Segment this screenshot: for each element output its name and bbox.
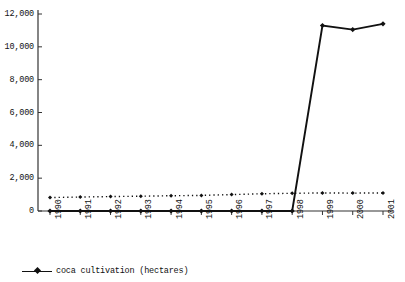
x-axis-tick-label: 1995 bbox=[205, 199, 215, 219]
y-axis-tick-label: 10,000 bbox=[5, 42, 34, 52]
x-axis-tick-label: 1992 bbox=[114, 199, 124, 219]
y-axis-tick-label: 4,000 bbox=[9, 140, 34, 150]
x-axis-tick-label: 1996 bbox=[235, 199, 245, 219]
x-axis-tick-label: 1990 bbox=[54, 199, 64, 219]
x-axis-tick-label: 1991 bbox=[84, 199, 94, 219]
y-axis-tick-label: 0 bbox=[29, 206, 34, 216]
legend-item-label: coca cultivation (hectares) bbox=[56, 266, 188, 276]
y-axis-tick-label: 8,000 bbox=[9, 75, 34, 85]
series-line-solid bbox=[50, 24, 383, 211]
legend-diamond-marker-icon bbox=[34, 267, 41, 274]
x-axis-tick-label: 1994 bbox=[175, 199, 185, 219]
axis-lines bbox=[38, 10, 393, 211]
x-axis-tick-label: 1999 bbox=[326, 199, 336, 219]
x-axis-tick-label: 2000 bbox=[356, 199, 366, 219]
series-markers-solid bbox=[47, 21, 385, 213]
x-axis-tick-label: 1993 bbox=[144, 199, 154, 219]
y-axis-tick-label: 6,000 bbox=[9, 108, 34, 118]
x-axis-tick-label: 2001 bbox=[387, 199, 397, 219]
plot-area bbox=[0, 0, 405, 282]
x-axis-tick-label: 1998 bbox=[296, 199, 306, 219]
chart-container: 12,00010,0008,0006,0004,0002,0000 199019… bbox=[0, 0, 405, 282]
y-axis-tick-label: 2,000 bbox=[9, 173, 34, 183]
series-line-dotted bbox=[50, 193, 383, 198]
legend-line-swatch bbox=[22, 267, 52, 276]
chart-legend: coca cultivation (hectares) bbox=[22, 266, 188, 276]
x-axis-tick-label: 1997 bbox=[265, 199, 275, 219]
y-axis-tick-label: 12,000 bbox=[5, 9, 34, 19]
